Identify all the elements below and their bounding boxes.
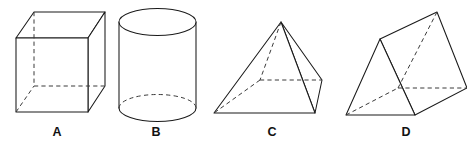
shape-label-b: B (151, 125, 160, 139)
cylinder-bottom-back-arc (119, 95, 196, 109)
shape-square-pyramid (214, 22, 322, 113)
shape-cylinder (119, 9, 196, 122)
cylinder-bottom-front-arc (119, 108, 196, 122)
shape-label-c: C (267, 125, 276, 139)
shape-label-d: D (401, 125, 410, 139)
shape-label-a: A (52, 125, 61, 139)
cylinder-top-ellipse (119, 9, 196, 36)
geometry-figure-panel: A B C D (0, 0, 467, 142)
shape-cube (16, 12, 105, 112)
shape-triangular-prism (346, 12, 467, 115)
solids-diagram: A B C D (0, 0, 467, 142)
cube-front-face (16, 38, 88, 112)
